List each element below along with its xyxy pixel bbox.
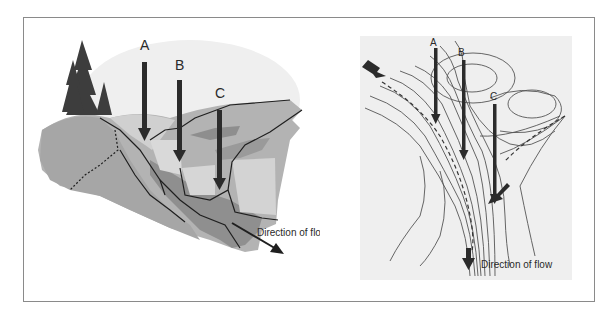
block-diagram: A B C Direction of flow <box>0 0 320 320</box>
flow-arrow-head <box>270 243 284 254</box>
arrow-c-shaft <box>217 110 222 180</box>
map-arrow-c-shaft <box>493 104 497 196</box>
arrow-a-shaft <box>142 62 147 130</box>
label-a: A <box>140 37 150 53</box>
flow-label-left: Direction of flow <box>257 227 320 238</box>
flow-label-right: Direction of flow <box>481 259 553 270</box>
block-diagram-illustration: A B C Direction of flow <box>0 0 320 320</box>
label-b: B <box>175 57 184 73</box>
label-c: C <box>215 85 225 101</box>
map-label-c: C <box>490 91 497 102</box>
arrow-b-shaft <box>177 80 182 152</box>
map-label-a: A <box>430 37 437 48</box>
map-label-b: B <box>458 47 465 58</box>
map-arrow-b-shaft <box>462 60 466 152</box>
map-arrow-a-shaft <box>434 48 438 116</box>
contour-map: A B C Direction of flow <box>360 36 572 280</box>
contour-map-illustration: A B C Direction of flow <box>360 36 572 280</box>
